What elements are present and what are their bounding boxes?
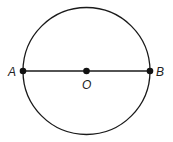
point-o [83, 68, 90, 75]
point-a [20, 68, 27, 75]
label-o: O [82, 78, 91, 92]
point-b [147, 68, 154, 75]
label-b: B [156, 65, 164, 79]
circle-diagram: A O B [0, 0, 173, 142]
label-a: A [7, 65, 16, 79]
